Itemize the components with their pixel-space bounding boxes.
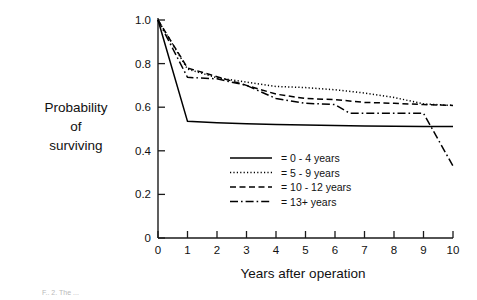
x-axis-ticks [158, 231, 453, 238]
x-tick-label: 9 [420, 244, 426, 256]
x-tick-label: 4 [273, 244, 280, 256]
x-axis-tick-labels: 012345678910 [155, 244, 460, 256]
data-series-group [158, 20, 453, 166]
y-axis-title: Probability of surviving [44, 100, 107, 153]
x-tick-label: 8 [391, 244, 397, 256]
y-tick-label: 0.6 [135, 101, 151, 113]
legend-label-3: = 13+ years [281, 196, 336, 208]
y-axis-title-line-1: Probability [44, 100, 107, 115]
series-line-3 [158, 20, 453, 166]
y-tick-label: 0.4 [135, 145, 152, 157]
legend-label-1: = 5 - 9 years [281, 167, 340, 179]
x-tick-label: 5 [302, 244, 308, 256]
x-tick-label: 10 [447, 244, 460, 256]
series-line-1 [158, 20, 453, 105]
legend-label-2: = 10 - 12 years [281, 181, 351, 193]
y-tick-label: 0 [145, 232, 151, 244]
y-axis-tick-labels: 00.20.40.60.81.0 [135, 14, 152, 244]
series-line-2 [158, 20, 453, 105]
y-axis-title-line-3: surviving [49, 138, 102, 153]
y-tick-label: 1.0 [135, 14, 151, 26]
chart-legend: = 0 - 4 years= 5 - 9 years= 10 - 12 year… [230, 152, 351, 208]
x-tick-label: 7 [361, 244, 367, 256]
x-axis-title: Years after operation [241, 266, 366, 281]
x-tick-label: 6 [332, 244, 338, 256]
x-tick-label: 0 [155, 244, 161, 256]
y-axis-title-line-2: of [70, 119, 82, 134]
figure-caption: F.. 2. The ... [42, 289, 79, 296]
y-tick-label: 0.2 [135, 188, 151, 200]
x-tick-label: 1 [184, 244, 190, 256]
figure-container: 00.20.40.60.81.0 012345678910 Probabilit… [0, 0, 477, 300]
y-tick-label: 0.8 [135, 58, 151, 70]
x-tick-label: 3 [243, 244, 249, 256]
y-axis-ticks [158, 20, 165, 238]
x-tick-label: 2 [214, 244, 220, 256]
legend-label-0: = 0 - 4 years [281, 152, 340, 164]
survival-curve-chart: 00.20.40.60.81.0 012345678910 Probabilit… [0, 0, 477, 300]
